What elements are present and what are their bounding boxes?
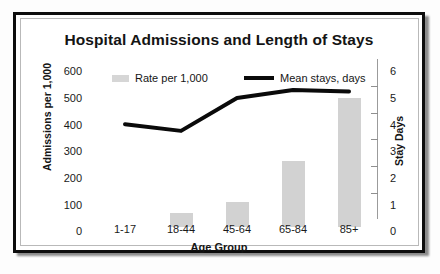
chart-figure-frame: Hospital Admissions and Length of Stays …	[13, 12, 425, 253]
legend-label-rate: Rate per 1,000	[135, 72, 208, 84]
x-axis-tick-labels: 1-1718-4445-6465-8485+	[16, 223, 422, 239]
legend-swatch-bar-icon	[112, 75, 129, 82]
line-series-layer	[16, 15, 422, 250]
chart-plot-area: Hospital Admissions and Length of Stays …	[16, 15, 422, 250]
x-tick-85+: 85+	[316, 223, 382, 235]
mean-stays-polyline	[125, 90, 349, 131]
legend-label-mean-stays: Mean stays, days	[280, 72, 366, 84]
chart-legend: Rate per 1,000 Mean stays, days	[112, 72, 372, 88]
scanned-page-background: Hospital Admissions and Length of Stays …	[0, 0, 440, 274]
x-axis-title: Age Group	[16, 241, 422, 253]
legend-swatch-line-icon	[244, 76, 274, 80]
legend-entry-rate: Rate per 1,000	[112, 72, 208, 84]
legend-entry-mean-stays: Mean stays, days	[244, 72, 366, 84]
